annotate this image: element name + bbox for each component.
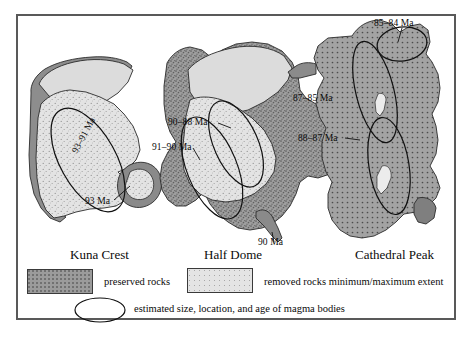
legend-label-ellipse: estimated size, location, and age of mag… xyxy=(134,303,345,314)
panel-title-kuna-crest: Kuna Crest xyxy=(70,247,129,263)
label-kuna-93: 93 Ma xyxy=(85,196,110,206)
label-cathedral-87-85: 87–85 Ma xyxy=(293,93,333,103)
label-halfdome-91-90: 91–90 Ma xyxy=(152,142,192,152)
legend-label-preserved: preserved rocks xyxy=(104,276,170,287)
label-cathedral-88-87: 88–87 Ma xyxy=(298,133,338,143)
figure-root: 93–91 Ma 93 Ma 90–88 Ma 91–90 Ma 90 Ma 8… xyxy=(0,0,475,343)
legend-swatch-preserved xyxy=(27,269,93,294)
legend-swatch-removed xyxy=(187,268,253,293)
panel-title-half-dome: Half Dome xyxy=(204,247,262,263)
label-halfdome-90: 90 Ma xyxy=(258,237,283,247)
legend-label-removed: removed rocks minimum/maximum extent xyxy=(264,276,443,287)
label-cathedral-85-84: 85–84 Ma xyxy=(374,18,414,28)
label-halfdome-90-88: 90–88 Ma xyxy=(168,117,208,127)
panel-title-cathedral-peak: Cathedral Peak xyxy=(355,247,434,263)
